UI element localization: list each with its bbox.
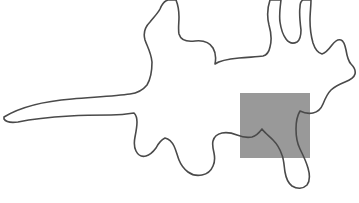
- figure-canvas: [0, 0, 359, 203]
- animal-outline-figure: [0, 0, 359, 203]
